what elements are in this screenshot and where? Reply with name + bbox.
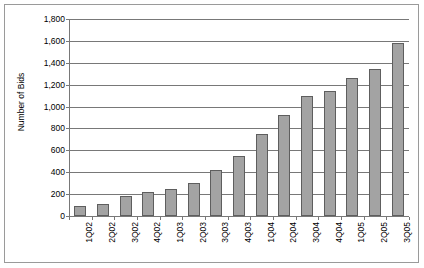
x-axis-tick-label: 4Q02: [152, 222, 162, 243]
bar: [278, 115, 290, 216]
plot-area: 02004006008001,0001,2001,4001,6001,800 1…: [69, 19, 409, 217]
y-axis-tick-label: 0: [60, 211, 65, 221]
bar: [369, 69, 381, 216]
x-axis-tick-mark: [318, 217, 319, 220]
plot-inner: 02004006008001,0001,2001,4001,6001,800 1…: [69, 19, 409, 217]
x-axis-tick-mark: [409, 217, 410, 220]
y-axis-tick-label: 400: [51, 167, 65, 177]
bar: [233, 156, 245, 216]
x-axis-tick-mark: [69, 217, 70, 220]
y-axis-tick-label: 1,600: [44, 36, 65, 46]
gridline: [69, 19, 409, 20]
x-axis-tick-mark: [114, 217, 115, 220]
bar: [210, 170, 222, 216]
bar: [165, 189, 177, 216]
x-axis-tick-label: 2Q03: [198, 222, 208, 243]
x-axis-tick-label: 2Q05: [379, 222, 389, 243]
x-axis-tick-label: 1Q03: [175, 222, 185, 243]
x-axis-tick-mark: [92, 217, 93, 220]
x-axis-tick-label: 1Q02: [84, 222, 94, 243]
x-axis-tick-mark: [250, 217, 251, 220]
y-axis-tick-label: 800: [51, 123, 65, 133]
y-axis-title: Number of Bids: [16, 42, 26, 162]
bar: [188, 183, 200, 216]
x-axis-tick-label: 2Q04: [288, 222, 298, 243]
bar: [324, 91, 336, 216]
x-axis-tick-mark: [205, 217, 206, 220]
y-axis-tick-label: 200: [51, 189, 65, 199]
x-axis-tick-label: 3Q03: [220, 222, 230, 243]
x-axis-tick-label: 1Q04: [266, 222, 276, 243]
y-axis-tick-label: 1,400: [44, 58, 65, 68]
y-axis-tick-label: 1,200: [44, 80, 65, 90]
chart-frame: Number of Bids 02004006008001,0001,2001,…: [4, 4, 419, 263]
bar: [97, 204, 109, 216]
x-axis-tick-mark: [228, 217, 229, 220]
x-axis-tick-label: 3Q05: [402, 222, 412, 243]
y-axis-tick-label: 1,800: [44, 14, 65, 24]
bar: [392, 43, 404, 216]
gridline: [69, 41, 409, 42]
x-axis-tick-label: 2Q02: [107, 222, 117, 243]
x-axis-tick-mark: [273, 217, 274, 220]
x-axis-tick-mark: [341, 217, 342, 220]
x-axis-tick-mark: [364, 217, 365, 220]
bar: [256, 134, 268, 216]
bar: [346, 78, 358, 216]
x-axis-tick-label: 1Q05: [356, 222, 366, 243]
x-axis-line: [69, 216, 409, 217]
x-axis-tick-label: 4Q04: [334, 222, 344, 243]
x-axis-tick-label: 3Q02: [130, 222, 140, 243]
x-axis-tick-label: 4Q03: [243, 222, 253, 243]
bar: [142, 192, 154, 216]
gridline: [69, 63, 409, 64]
bar: [120, 196, 132, 216]
x-axis-tick-mark: [296, 217, 297, 220]
x-axis-tick-mark: [386, 217, 387, 220]
y-axis-tick-label: 1,000: [44, 102, 65, 112]
y-axis-tick-label: 600: [51, 145, 65, 155]
x-axis-tick-label: 3Q04: [311, 222, 321, 243]
x-axis-tick-mark: [160, 217, 161, 220]
y-axis-line: [69, 19, 70, 217]
bar: [74, 206, 86, 216]
x-axis-tick-mark: [182, 217, 183, 220]
x-axis-tick-mark: [137, 217, 138, 220]
bar: [301, 96, 313, 216]
